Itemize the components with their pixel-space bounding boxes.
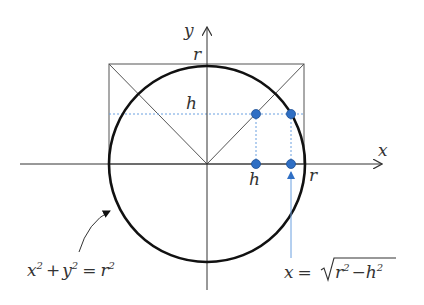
h-left-label: h xyxy=(186,93,197,113)
x-axis-label: x xyxy=(378,140,388,160)
equation-pointer-arrow xyxy=(79,211,110,252)
r-right-label: r xyxy=(309,165,318,185)
svg-text:r2−h2: r2−h2 xyxy=(335,262,383,282)
dot-sqrt-axis xyxy=(287,160,296,169)
circle-equation: x2+y2=r2 xyxy=(27,260,115,280)
svg-text:x=: x= xyxy=(284,262,312,282)
dot-h-axis xyxy=(252,160,261,169)
root-equation: x= r2−h2 xyxy=(284,258,396,282)
dot-h-upper xyxy=(252,110,261,119)
y-axis-label: y xyxy=(183,20,194,40)
r-top-label: r xyxy=(193,44,202,64)
h-bottom-label: h xyxy=(249,169,260,189)
circle-diagram: y x r r h h x2+y2=r2 x= r2−h2 xyxy=(0,0,424,305)
dot-sqrt-upper xyxy=(287,110,296,119)
svg-text:x2+y2=r2: x2+y2=r2 xyxy=(27,260,115,280)
